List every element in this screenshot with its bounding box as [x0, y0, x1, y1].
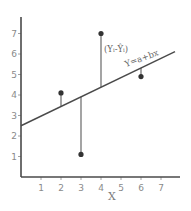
data-point: [78, 152, 83, 157]
y-tick-label: 3: [11, 111, 17, 121]
data-point: [138, 74, 143, 79]
x-tick-label: 4: [98, 183, 104, 193]
y-tick-label: 6: [11, 49, 17, 59]
y-tick-label: 5: [11, 70, 17, 80]
y-tick-label: 4: [11, 90, 17, 100]
y-tick-label: 1: [11, 152, 17, 162]
y-tick-label: 2: [11, 131, 17, 141]
residual-annotation: (Yᵢ-Ŷᵢ): [104, 43, 128, 54]
x-tick-label: 3: [78, 183, 84, 193]
x-axis-ticks: 1234567: [38, 177, 164, 193]
regression-line: [21, 52, 175, 126]
data-point: [98, 31, 103, 36]
data-point: [58, 90, 63, 95]
x-tick-label: 1: [38, 183, 44, 193]
y-axis-ticks: 1234567: [11, 29, 21, 162]
x-tick-label: 6: [138, 183, 144, 193]
x-tick-label: 5: [118, 183, 124, 193]
y-tick-label: 7: [11, 29, 17, 39]
x-axis-label: X: [108, 190, 116, 203]
x-tick-label: 7: [158, 183, 164, 193]
x-tick-label: 2: [58, 183, 64, 193]
regression-chart: 1234567 1234567 (Yᵢ-Ŷᵢ) Y=a+bx X: [0, 0, 191, 211]
residual-lines: [61, 34, 141, 155]
